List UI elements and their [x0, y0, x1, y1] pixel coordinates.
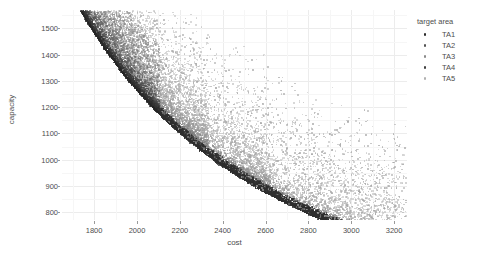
- scatter-point: [254, 105, 256, 107]
- scatter-point: [316, 174, 318, 176]
- scatter-point: [239, 106, 241, 108]
- scatter-point: [251, 132, 253, 134]
- scatter-point: [207, 128, 209, 130]
- scatter-point: [381, 216, 383, 218]
- scatter-point: [293, 169, 295, 171]
- scatter-point: [264, 159, 266, 161]
- scatter-point: [344, 123, 346, 125]
- scatter-point: [179, 67, 181, 69]
- scatter-point: [200, 96, 202, 98]
- scatter-point: [138, 38, 140, 40]
- scatter-point: [342, 153, 344, 155]
- scatter-point: [156, 23, 158, 25]
- scatter-point: [388, 185, 390, 187]
- scatter-point: [259, 140, 261, 142]
- scatter-point: [273, 116, 275, 118]
- scatter-point: [314, 116, 316, 118]
- scatter-point: [121, 36, 123, 38]
- scatter-point: [198, 69, 200, 71]
- scatter-point: [232, 96, 234, 98]
- y-tick-label: 900: [45, 181, 58, 190]
- scatter-point: [211, 137, 213, 139]
- scatter-point: [182, 100, 184, 102]
- scatter-point: [237, 142, 239, 144]
- scatter-point: [219, 103, 221, 105]
- scatter-point: [205, 85, 207, 87]
- scatter-point: [186, 119, 188, 121]
- legend-item-ta5[interactable]: TA5: [416, 73, 474, 84]
- scatter-point: [320, 177, 322, 179]
- scatter-point: [276, 108, 278, 110]
- scatter-point: [328, 141, 330, 143]
- scatter-point: [226, 153, 228, 155]
- scatter-point: [100, 21, 102, 23]
- scatter-point: [283, 141, 285, 143]
- scatter-point: [373, 170, 375, 172]
- scatter-point: [371, 196, 373, 198]
- scatter-point: [112, 39, 114, 41]
- scatter-point: [142, 81, 144, 83]
- scatter-point: [244, 104, 246, 106]
- legend-item-ta3[interactable]: TA3: [416, 51, 474, 62]
- scatter-point: [331, 174, 333, 176]
- scatter-point: [267, 179, 269, 181]
- scatter-point: [308, 120, 310, 122]
- scatter-point: [283, 120, 285, 122]
- scatter-point: [249, 120, 251, 122]
- scatter-point: [340, 201, 342, 203]
- scatter-point: [243, 89, 245, 91]
- scatter-point: [160, 100, 162, 102]
- scatter-point: [211, 127, 213, 129]
- scatter-point: [102, 30, 104, 32]
- legend-item-ta2[interactable]: TA2: [416, 40, 474, 51]
- scatter-point: [164, 34, 166, 36]
- scatter-point: [217, 136, 219, 138]
- scatter-point: [399, 176, 401, 178]
- scatter-point: [322, 184, 324, 186]
- scatter-point: [188, 83, 190, 85]
- scatter-point: [193, 102, 195, 104]
- scatter-point: [175, 43, 177, 45]
- scatter-point: [242, 110, 244, 112]
- scatter-point: [97, 35, 99, 37]
- scatter-point: [175, 57, 177, 59]
- legend-item-ta1[interactable]: TA1: [416, 29, 474, 40]
- scatter-point: [401, 203, 403, 205]
- scatter-point: [341, 127, 343, 129]
- scatter-point: [119, 16, 121, 18]
- scatter-point: [128, 29, 130, 31]
- scatter-point: [376, 154, 378, 156]
- scatter-point: [371, 206, 373, 208]
- scatter-point: [163, 68, 165, 70]
- scatter-point: [298, 156, 300, 158]
- scatter-point: [257, 143, 259, 145]
- scatter-point: [354, 135, 356, 137]
- scatter-point: [271, 144, 273, 146]
- scatter-point: [259, 184, 261, 186]
- scatter-point: [264, 156, 266, 158]
- scatter-point: [404, 216, 406, 218]
- scatter-point: [137, 20, 139, 22]
- scatter-point: [265, 83, 267, 85]
- legend-item-ta4[interactable]: TA4: [416, 62, 474, 73]
- scatter-point: [204, 106, 206, 108]
- legend-marker-icon: [416, 55, 434, 57]
- scatter-point: [334, 134, 336, 136]
- scatter-point: [394, 138, 396, 140]
- scatter-point: [91, 15, 93, 17]
- scatter-point: [286, 147, 288, 149]
- scatter-point: [175, 36, 177, 38]
- scatter-point: [384, 171, 386, 173]
- scatter-point: [368, 194, 370, 196]
- scatter-point: [162, 116, 164, 118]
- scatter-point: [334, 155, 336, 157]
- scatter-point: [244, 101, 246, 103]
- scatter-point: [124, 23, 126, 25]
- scatter-point: [140, 22, 142, 24]
- scatter-point: [115, 43, 117, 45]
- scatter-point: [311, 108, 313, 110]
- scatter-point: [250, 151, 252, 153]
- scatter-point: [251, 160, 253, 162]
- scatter-point: [290, 167, 292, 169]
- scatter-point: [342, 159, 344, 161]
